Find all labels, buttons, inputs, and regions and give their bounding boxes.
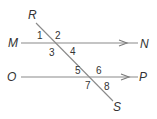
angle-label-8: 8 [104,81,110,92]
angle-label-3: 3 [49,47,55,58]
angle-label-5: 5 [75,65,81,76]
angle-label-2: 2 [55,30,61,41]
parallel-lines-diagram: R M N O P S 1 2 3 4 5 6 7 8 [0,0,157,119]
angle-label-1: 1 [37,30,43,41]
point-label-s: S [113,100,121,114]
angle-label-6: 6 [96,65,102,76]
point-label-p: P [139,70,147,84]
transversal-line-rs [36,23,113,101]
point-label-r: R [28,8,37,22]
angle-label-4: 4 [70,46,76,57]
point-label-o: O [7,70,16,84]
point-label-n: N [140,37,149,51]
angle-label-7: 7 [85,80,91,91]
point-label-m: M [8,36,18,50]
